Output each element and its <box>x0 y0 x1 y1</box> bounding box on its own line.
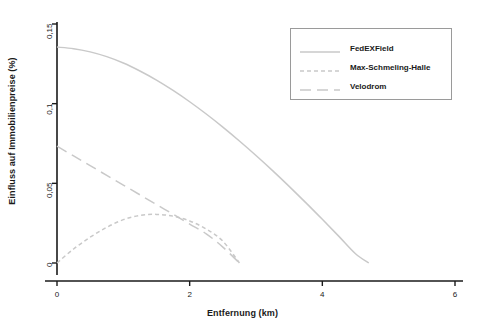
legend-label: Max-Schmeling-Halle <box>350 63 430 72</box>
legend-line-swatch <box>300 43 340 53</box>
legend-line-swatch <box>300 62 340 72</box>
legend-label: FedEXField <box>350 44 394 53</box>
series-line-velodrom <box>57 146 239 263</box>
chart-container: Einfluss auf Immobilienpreise (%) Entfer… <box>0 0 485 322</box>
legend-label: Velodrom <box>350 82 386 91</box>
legend-line-swatch <box>300 81 340 91</box>
legend-item[interactable]: Velodrom <box>291 75 451 97</box>
legend: FedEXFieldMax-Schmeling-HalleVelodrom <box>290 28 452 100</box>
